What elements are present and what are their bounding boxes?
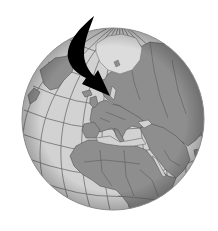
globe-limb-shade [22, 28, 204, 210]
globe-graphic [0, 0, 218, 231]
globe-illustration [0, 0, 218, 231]
land-madagascar [166, 200, 172, 214]
